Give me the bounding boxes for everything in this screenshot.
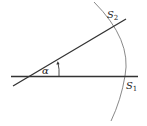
arrowhead-icon [56, 61, 59, 64]
geometry-diagram: α S2 S1 [0, 0, 147, 126]
angle-label: α [42, 65, 49, 76]
s2-label: S2 [107, 9, 118, 22]
s1-label: S1 [126, 80, 137, 93]
angle-arc-arrow [58, 63, 59, 76]
